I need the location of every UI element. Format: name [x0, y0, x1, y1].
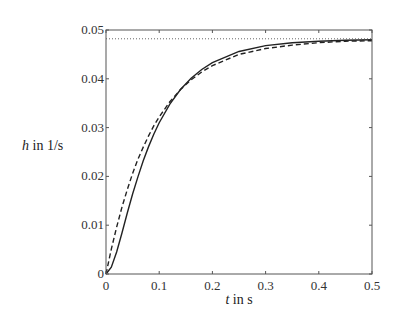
y-axis-variable: h — [22, 138, 29, 153]
y-tick-label: 0 — [98, 266, 105, 281]
series-line-solid — [106, 40, 372, 274]
x-axis-unit: in s — [229, 292, 252, 307]
step-response-chart: 00.10.20.30.40.5 00.010.020.030.040.05 t… — [0, 0, 402, 323]
y-tick-label: 0.03 — [81, 120, 104, 135]
x-tick-label: 0.3 — [257, 278, 273, 293]
y-axis-ticks: 00.010.020.030.040.05 — [81, 22, 372, 281]
x-axis-ticks: 00.10.20.30.40.5 — [103, 30, 380, 293]
series-layer — [106, 39, 372, 274]
y-tick-label: 0.01 — [81, 217, 104, 232]
y-tick-label: 0.02 — [81, 168, 104, 183]
x-tick-label: 0.5 — [364, 278, 380, 293]
y-axis-unit: in 1/s — [29, 138, 63, 153]
y-tick-label: 0.04 — [81, 71, 104, 86]
y-tick-label: 0.05 — [81, 22, 104, 37]
x-tick-label: 0.2 — [204, 278, 220, 293]
y-axis-label: h in 1/s — [22, 138, 63, 153]
x-tick-label: 0.1 — [151, 278, 167, 293]
x-tick-label: 0.4 — [311, 278, 328, 293]
series-line-dashed — [106, 41, 372, 274]
x-axis-label: t in s — [225, 292, 252, 307]
